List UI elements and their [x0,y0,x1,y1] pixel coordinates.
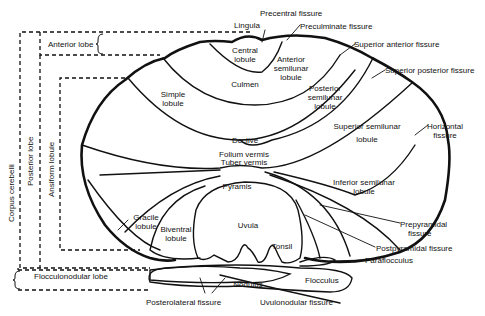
preculminate-leader [287,25,300,40]
lingula-label: Lingula [234,21,260,30]
simple-lobule-label: Simple lobule [161,90,185,108]
horizontal-line2: fissure [427,131,463,140]
flocculonodular-lobe-label: Flocculonodular lobe [34,272,108,281]
gracile-line2: lobule [133,222,158,231]
folium-tuber-line-left [100,170,220,175]
uvula-label: Uvula [238,221,258,230]
tonsil-label: Tonsil [272,242,292,251]
inferior-semilunar-lobule-label: Inferior semilunar lobule [333,178,395,196]
psl-line2: semilunar [308,93,343,102]
horizontal-fissure-label: Horizontal fissure [427,122,463,140]
central-lobule-line2: lobule [232,55,258,64]
asl-line3: lobule [274,73,309,82]
ssl-line2: lobule [333,135,400,144]
simple-line1: Simple [161,90,185,99]
posterolateral-leader-2 [212,278,225,293]
isl-line2: lobule [333,187,395,196]
culmen-label: Culmen [231,80,259,89]
superior-posterior-fissure-label: Superior posterior fissure [385,66,474,75]
prepyramidal-line2: fissure [400,229,447,238]
nodulus-label: Nodulus [233,280,262,289]
isl-line1: Inferior semilunar [333,178,395,187]
posterolateral-leader [200,278,205,293]
biventral-line2: lobule [160,234,191,243]
psl-line3: lobule [308,102,343,111]
gracile-line1: Gracile [133,213,158,222]
biventral-line1: Biventral [160,225,191,234]
precentral-fissure-label: Precentral fissure [260,9,322,18]
cerebellum-diagram: Anterior lobe Flocculonodular lobe Corpu… [0,0,485,316]
pyramis-label: Pyramis [223,182,252,191]
flocculus-label: Flocculus [305,276,339,285]
asl-line2: semilunar [274,64,309,73]
paraflocculus-label: Paraflocculus [365,256,413,265]
tuber-vermis-label: Tuber vermis [221,158,267,167]
anterior-semilunar-lobule-label: Anterior semilunar lobule [274,55,309,82]
tonsil-curve [296,200,320,258]
prepyramidal-fissure-label: Prepyramidal fissure [400,220,447,238]
gracile-leader [118,220,128,230]
central-lobule-label: Central lobule [232,46,258,64]
preculminate-fissure-label: Preculminate fissure [300,22,372,31]
anterior-lobe-brace [96,34,103,54]
posterolateral-fissure-label: Posterolateral fissure [146,298,221,307]
simple-line2: lobule [161,99,185,108]
posterior-lobe-label: Posterior lobe [26,137,35,186]
anterior-lobe-label: Anterior lobe [48,40,93,49]
ssl-line1: Superior semilunar [333,122,400,131]
psl-line1: Posterior [308,84,343,93]
prepyramidal-line1: Prepyramidal [400,220,447,229]
uvulonodular-fissure-label: Uvulonodular fissure [260,298,333,307]
gracile-lobule-label: Gracile lobule [133,213,158,231]
superior-anterior-fissure-label: Superior anterior fissure [354,40,439,49]
declive-label: Declive [232,136,258,145]
biventral-lobule-label: Biventral lobule [160,225,191,243]
prepyramidal-leader [320,205,400,223]
flocculonodular-brace [13,271,20,289]
asl-line1: Anterior [274,55,309,64]
superior-posterior-leader [372,70,385,78]
superior-semilunar-lobule-label: Superior semilunar lobule [333,122,400,144]
ansiform-lobule-label: Ansiform lobule [47,142,56,197]
central-lobule-line1: Central [232,46,258,55]
corpus-cerebelli-label: Corpus cerebelli [7,164,16,222]
posterior-semilunar-lobule-label: Posterior semilunar lobule [308,84,343,111]
postpyramidal-fissure-label: Postpyramidal fissure [376,244,452,253]
horizontal-line1: Horizontal [427,122,463,131]
